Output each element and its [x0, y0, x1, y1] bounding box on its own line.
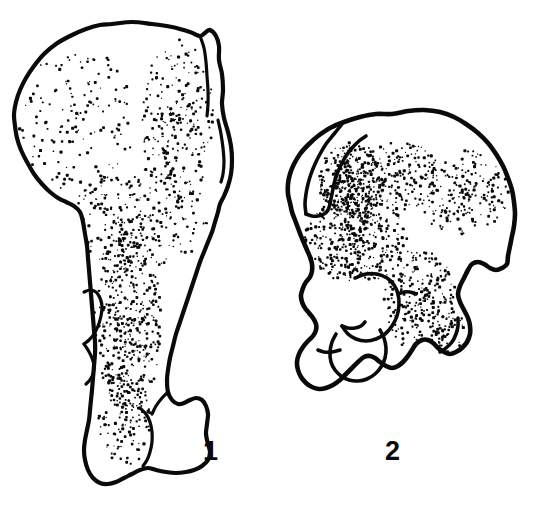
figure-label-2: 2: [385, 438, 400, 465]
figure-label-1: 1: [203, 438, 218, 465]
figure-plate: 1 2: [0, 0, 541, 506]
figure-illustration: [0, 0, 541, 506]
